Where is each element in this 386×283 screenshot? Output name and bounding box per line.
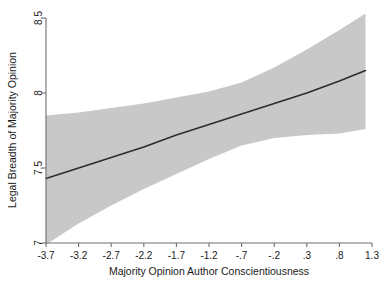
regression-plot: 77.588.5 -3.7-3.2-2.7-2.2-1.7-1.2-.7-.2.…: [0, 0, 386, 283]
y-tick-label: 7: [33, 240, 44, 246]
x-tick-label: .3: [303, 250, 312, 261]
x-tick-label: -2.2: [135, 250, 153, 261]
x-tick-label: -.2: [268, 250, 280, 261]
x-tick-label: -1.7: [168, 250, 186, 261]
x-tick-label: -3.2: [70, 250, 88, 261]
y-axis-ticks: 77.588.5: [33, 11, 46, 246]
x-tick-label: .8: [335, 250, 344, 261]
y-tick-label: 7.5: [33, 161, 44, 175]
x-tick-label: -2.7: [103, 250, 121, 261]
x-tick-label: 1.3: [365, 250, 379, 261]
y-axis-title: Legal Breadth of Majority Opinion: [6, 52, 18, 208]
y-tick-label: 8: [33, 90, 44, 96]
x-axis-title: Majority Opinion Author Conscientiousnes…: [109, 265, 309, 277]
x-tick-label: -.7: [236, 250, 248, 261]
y-tick-label: 8.5: [33, 11, 44, 25]
x-tick-label: -1.2: [200, 250, 218, 261]
chart-figure: 77.588.5 -3.7-3.2-2.7-2.2-1.7-1.2-.7-.2.…: [0, 0, 386, 283]
x-axis-ticks: -3.7-3.2-2.7-2.2-1.7-1.2-.7-.2.3.81.3: [37, 243, 379, 261]
x-tick-label: -3.7: [37, 250, 55, 261]
